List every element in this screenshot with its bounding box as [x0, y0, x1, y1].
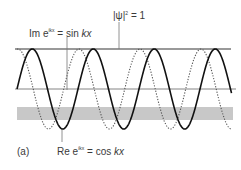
norm-label: |ψ|2 = 1: [113, 10, 146, 21]
panel-label: (a): [17, 146, 29, 157]
real-label: Re eikx = cos kx: [57, 145, 125, 157]
wavefunction-diagram: |ψ|2 = 1 Im eikx = sin kx (a) Re eikx = …: [0, 0, 241, 170]
gray-band: [17, 107, 233, 120]
imag-label: Im eikx = sin kx: [29, 27, 93, 39]
